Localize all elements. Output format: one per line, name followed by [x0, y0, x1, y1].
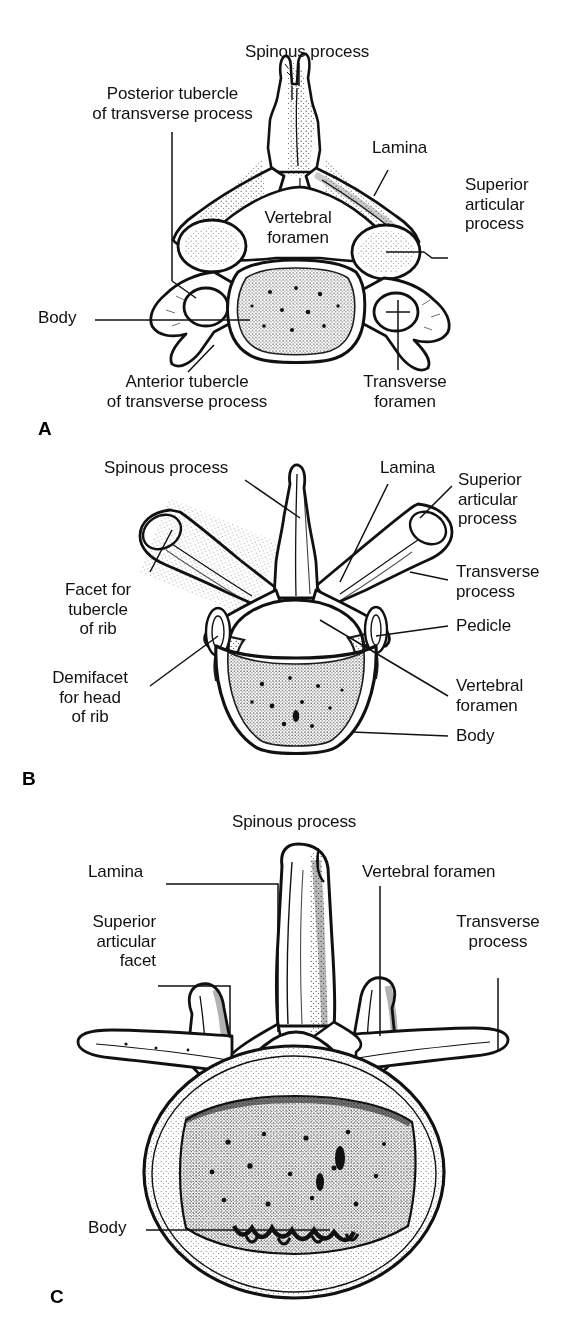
vertebrae-figure: Spinous process Posterior tubercle of tr… — [0, 0, 588, 1327]
label-vertebral-foramen-a: Vertebral foramen — [250, 208, 346, 247]
label-demifacet-head-of-rib-b: Demifacet for head of rib — [30, 668, 150, 727]
panel-letter-b: B — [22, 768, 36, 790]
label-facet-tubercle-of-rib-b: Facet for tubercle of rib — [46, 580, 150, 639]
label-spinous-process-c: Spinous process — [232, 812, 356, 832]
panel-b-thoracic-vertebra: Spinous process Lamina Superior articula… — [0, 440, 588, 790]
label-lamina-b: Lamina — [380, 458, 435, 478]
label-superior-articular-process-b: Superior articular process — [458, 470, 521, 529]
label-vertebral-foramen-c: Vertebral foramen — [362, 862, 495, 882]
label-superior-articular-facet-c: Superior articular facet — [0, 912, 156, 971]
label-anterior-tubercle-a: Anterior tubercle of transverse process — [84, 372, 290, 411]
panel-letter-c: C — [50, 1286, 64, 1308]
label-lamina-a: Lamina — [372, 138, 427, 158]
label-posterior-tubercle-a: Posterior tubercle of transverse process — [70, 84, 275, 123]
label-body-a: Body — [38, 308, 76, 328]
panel-c-lumbar-vertebra: Spinous process Lamina Vertebral foramen… — [0, 790, 588, 1327]
label-spinous-process-a: Spinous process — [245, 42, 355, 62]
label-pedicle-b: Pedicle — [456, 616, 511, 636]
label-transverse-process-b: Transverse process — [456, 562, 539, 601]
label-vertebral-foramen-b: Vertebral foramen — [456, 676, 523, 715]
label-superior-articular-process-a: Superior articular process — [465, 175, 528, 234]
label-lamina-c: Lamina — [88, 862, 143, 882]
panel-a-cervical-vertebra: Spinous process Posterior tubercle of tr… — [0, 0, 588, 440]
label-transverse-foramen-a: Transverse foramen — [350, 372, 460, 411]
label-spinous-process-b: Spinous process — [104, 458, 228, 478]
label-body-c: Body — [88, 1218, 126, 1238]
label-body-b: Body — [456, 726, 494, 746]
panel-letter-a: A — [38, 418, 52, 440]
label-transverse-process-c: Transverse process — [424, 912, 572, 951]
